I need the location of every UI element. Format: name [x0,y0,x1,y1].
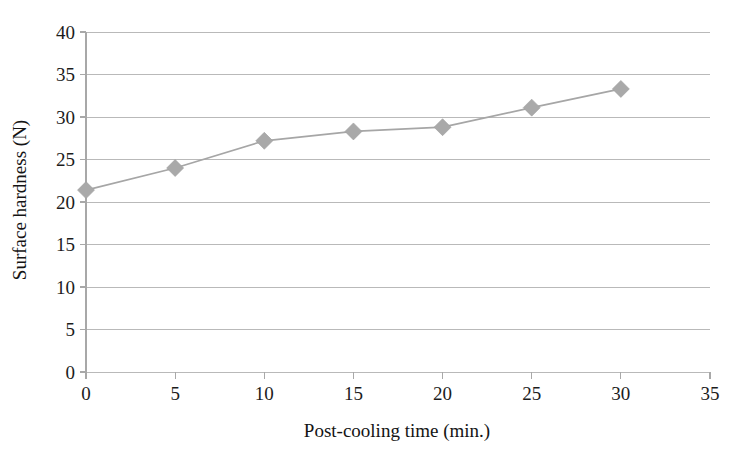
x-axis-ticks: 05101520253035 [81,372,719,404]
data-point-marker [167,160,184,177]
data-point-marker [78,182,95,199]
x-tick-label: 0 [81,383,91,404]
y-tick-label: 35 [56,64,75,85]
data-point-marker [612,80,629,97]
data-point-marker [345,123,362,140]
x-tick-label: 30 [611,383,630,404]
x-axis-title: Post-cooling time (min.) [304,420,490,442]
chart-canvas: 05101520253035 0510152025303540 Post-coo… [0,0,739,456]
y-tick-label: 30 [56,107,75,128]
y-tick-label: 0 [66,362,76,383]
data-point-marker [256,132,273,149]
data-markers [78,80,630,198]
y-tick-label: 15 [56,234,75,255]
y-tick-label: 40 [56,22,75,43]
x-tick-label: 15 [344,383,363,404]
x-tick-label: 5 [170,383,180,404]
x-tick-label: 35 [701,383,720,404]
y-tick-label: 25 [56,149,75,170]
data-point-marker [523,99,540,116]
y-tick-label: 20 [56,192,75,213]
line-chart: 05101520253035 0510152025303540 Post-coo… [0,0,739,456]
data-point-marker [434,119,451,136]
gridlines [86,32,710,372]
x-tick-label: 10 [255,383,274,404]
y-axis-title: Surface hardness (N) [9,120,31,280]
x-tick-label: 20 [433,383,452,404]
y-tick-label: 5 [66,319,76,340]
y-axis-ticks: 0510152025303540 [56,22,86,383]
y-tick-label: 10 [56,277,75,298]
x-tick-label: 25 [522,383,541,404]
